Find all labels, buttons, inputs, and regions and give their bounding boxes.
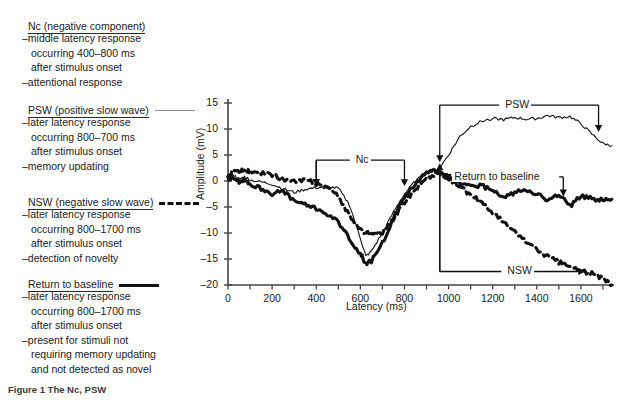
legend-line: requiring memory updating (0, 347, 215, 362)
legend-title-psw: PSW (positive slow wave) (0, 100, 215, 115)
legend-swatch-psw (155, 106, 195, 114)
annotation-nsw-stem (436, 163, 443, 271)
legend-title-nsw: NSW (negative slow wave) (0, 192, 215, 207)
annotation-label: PSW (503, 98, 531, 110)
x-tick-label: 0 (211, 292, 245, 304)
legend-line: after stimulus onset (0, 144, 215, 159)
x-tick-label: 200 (255, 292, 289, 304)
figure-caption: Figure 1 The Nc, PSW (8, 384, 608, 396)
legend-line: –present for stimuli not (0, 333, 215, 348)
y-axis-label: Amplitude (mV) (194, 128, 206, 200)
legend-line: and not detected as novel (0, 362, 215, 377)
waveform-plot (196, 82, 617, 322)
annotation-label: Nc (354, 153, 371, 165)
legend-title-text: Nc (negative component) (28, 20, 145, 34)
legend-line: after stimulus onset (0, 236, 215, 251)
annotation-label: Return to baseline (452, 170, 541, 182)
legend-line: after stimulus onset (0, 318, 215, 333)
y-tick-label: 0 (194, 174, 218, 186)
legend-block-nsw: NSW (negative slow wave)–later latency r… (0, 192, 215, 265)
legend-line: occurring 800–700 ms (0, 130, 215, 145)
legend-block-nc: Nc (negative component)–middle latency r… (0, 16, 215, 89)
annotation-psw (436, 105, 602, 162)
legend-block-return: Return to baseline–later latency respons… (0, 274, 215, 377)
legend-title-text: Return to baseline (28, 278, 113, 292)
legend-line: occurring 400–800 ms (0, 46, 215, 61)
legend-line: –attentional response (0, 75, 215, 90)
x-tick-label: 1200 (476, 292, 510, 304)
legend-title-return: Return to baseline (0, 274, 215, 289)
x-tick-label: 1600 (564, 292, 598, 304)
legend-line: –detection of novelty (0, 251, 215, 266)
legend-line: –memory updating (0, 159, 215, 174)
annotation-label: NSW (505, 264, 534, 276)
x-tick-label: 800 (387, 292, 421, 304)
y-tick-label: –5 (194, 200, 218, 212)
y-tick-label: 5 (194, 148, 218, 160)
x-tick-label: 1400 (520, 292, 554, 304)
y-tick-label: –10 (194, 226, 218, 238)
erp-chart: Amplitude (mV) Latency (ms) 151050–5–10–… (196, 82, 617, 322)
x-tick-label: 600 (343, 292, 377, 304)
x-tick-label: 1000 (432, 292, 466, 304)
legend-line: occurring 800–1700 ms (0, 304, 215, 319)
y-tick-label: 10 (194, 122, 218, 134)
y-tick-label: 15 (194, 96, 218, 108)
legend-block-psw: PSW (positive slow wave)–later latency r… (0, 100, 215, 173)
legend-title-text: PSW (positive slow wave) (28, 104, 149, 118)
legend-title-nc: Nc (negative component) (0, 16, 215, 31)
x-tick-label: 400 (299, 292, 333, 304)
series-thick-dashed (228, 169, 612, 286)
y-tick-label: –15 (194, 252, 218, 264)
legend-swatch-return (119, 280, 159, 288)
series-thin-solid (228, 115, 612, 255)
y-tick-label: –20 (194, 278, 218, 290)
legend-line: occurring 800–1700 ms (0, 222, 215, 237)
legend-panel: Nc (negative component)–middle latency r… (0, 0, 215, 400)
legend-title-text: NSW (negative slow wave) (28, 196, 153, 210)
legend-line: after stimulus onset (0, 60, 215, 75)
